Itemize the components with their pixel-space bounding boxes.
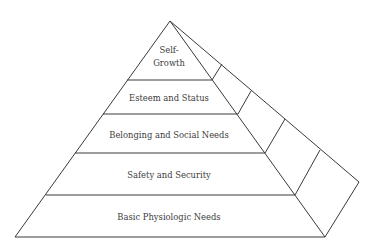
side-divider-3 (265, 119, 285, 153)
level-label-esteem: Esteem and Status (129, 93, 209, 103)
side-divider-2 (238, 91, 251, 114)
level-label-self-growth-line1: Self- (159, 45, 178, 55)
side-divider-4 (295, 150, 320, 195)
pyramid-diagram: Self- Growth Esteem and Status Belonging… (0, 0, 381, 251)
level-label-safety: Safety and Security (127, 170, 211, 180)
level-label-self-growth-line2: Growth (153, 58, 185, 68)
pyramid-side-face (170, 21, 359, 237)
side-divider-1 (212, 64, 222, 80)
level-label-belonging: Belonging and Social Needs (109, 130, 228, 140)
level-label-physiologic: Basic Physiologic Needs (117, 212, 220, 222)
